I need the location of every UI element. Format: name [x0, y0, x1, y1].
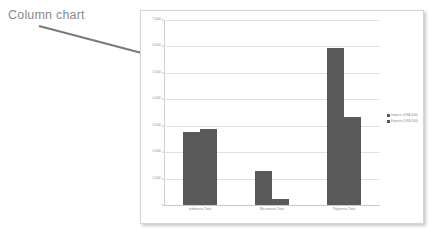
chart-legend: Imports (US$,000)Exports (US$,000)	[387, 114, 427, 126]
plot-area: -1,0002,0003,0004,0005,0006,0007,000 Ind…	[164, 20, 380, 205]
y-axis-tick-label: 6,000	[153, 45, 162, 48]
x-axis-category-label: Polynesia Total	[327, 208, 361, 211]
legend-swatch-icon	[387, 120, 390, 123]
gridline	[164, 205, 380, 206]
annotation-label: Column chart	[8, 8, 85, 22]
y-axis-tick-label: 5,000	[153, 71, 162, 74]
bar-group: Indonesia Total	[183, 20, 217, 205]
y-axis-tick-label: -	[160, 203, 161, 206]
bar-imports[interactable]	[183, 132, 200, 205]
y-axis-tick-label: 3,000	[153, 124, 162, 127]
legend-label: Imports (US$,000)	[391, 114, 418, 117]
bar-exports[interactable]	[344, 117, 361, 205]
y-axis-tick-label: 2,000	[153, 150, 162, 153]
bar-group: Micronesia Total	[255, 20, 289, 205]
bar-imports[interactable]	[255, 171, 272, 205]
legend-label: Exports (US$,000)	[391, 120, 418, 123]
bar-imports[interactable]	[327, 48, 344, 205]
legend-swatch-icon	[387, 114, 390, 117]
y-axis-tick-label: 1,000	[153, 177, 162, 180]
x-axis-category-label: Micronesia Total	[255, 208, 289, 211]
bar-exports[interactable]	[200, 129, 217, 205]
bar-exports[interactable]	[272, 199, 289, 205]
chart-frame[interactable]: -1,0002,0003,0004,0005,0006,0007,000 Ind…	[140, 10, 424, 224]
bar-group: Polynesia Total	[327, 20, 361, 205]
screenshot-stage: Column chart -1,0002,0003,0004,0005,0006…	[0, 0, 429, 233]
y-axis-tick-label: 7,000	[153, 18, 162, 21]
legend-item[interactable]: Exports (US$,000)	[387, 120, 427, 123]
y-axis-tick-label: 4,000	[153, 98, 162, 101]
bars-layer: Indonesia TotalMicronesia TotalPolynesia…	[164, 20, 380, 205]
legend-item[interactable]: Imports (US$,000)	[387, 114, 427, 117]
x-axis-category-label: Indonesia Total	[183, 208, 217, 211]
